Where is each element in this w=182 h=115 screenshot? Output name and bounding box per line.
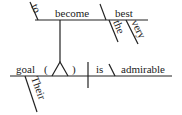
sentence-diagram: to become best the very goal ( ) is admi… <box>0 0 182 115</box>
word-very: very <box>129 18 149 41</box>
paren-open: ( <box>44 63 48 76</box>
word-is: is <box>96 63 103 75</box>
word-goal: goal <box>16 63 35 75</box>
word-best: best <box>115 7 133 19</box>
paren-close: ) <box>72 63 76 76</box>
word-become: become <box>55 7 89 19</box>
complement-divider <box>100 4 106 20</box>
pedestal <box>52 62 68 76</box>
predicate-adjective-divider <box>109 64 115 76</box>
word-admirable: admirable <box>121 63 165 75</box>
